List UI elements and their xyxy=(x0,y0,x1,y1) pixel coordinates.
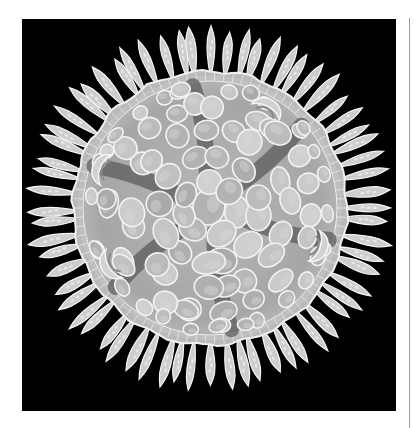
image-panel xyxy=(22,19,396,411)
organism-illustration xyxy=(22,19,396,411)
spine xyxy=(28,207,81,217)
spine xyxy=(32,215,81,228)
spine xyxy=(184,337,198,391)
page-edge-rule xyxy=(409,18,410,428)
spine xyxy=(339,185,391,200)
